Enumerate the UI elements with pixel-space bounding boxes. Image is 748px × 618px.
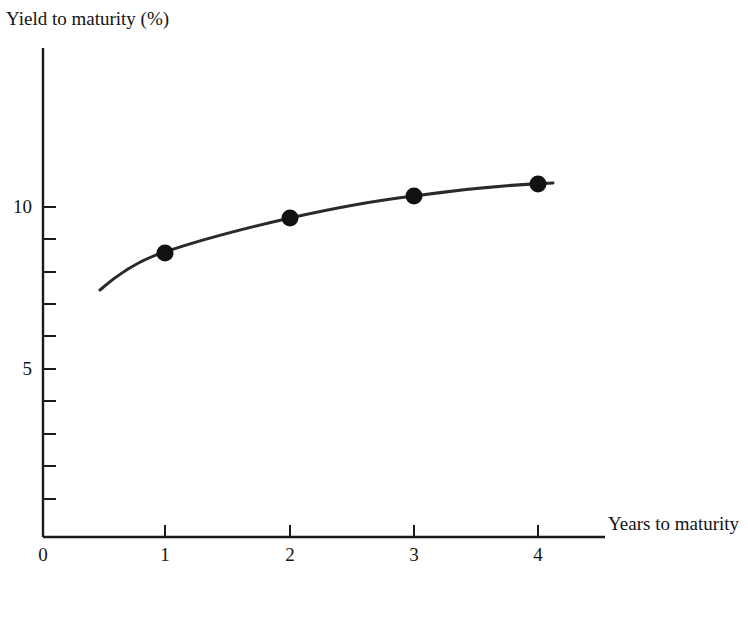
- yield-curve-figure: Yield to maturity (%) Years to maturity: [0, 0, 748, 618]
- y-tick-label-5: 5: [2, 359, 32, 379]
- data-point-marker: [406, 188, 423, 205]
- x-tick-label-4: 4: [523, 545, 553, 565]
- x-tick-label-0: 0: [28, 545, 58, 565]
- x-tick-label-1: 1: [150, 545, 180, 565]
- x-tick-label-2: 2: [275, 545, 305, 565]
- yield-curve-line: [100, 183, 553, 290]
- x-tick-label-3: 3: [399, 545, 429, 565]
- x-axis-ticks: [165, 525, 538, 537]
- y-tick-label-10: 10: [2, 197, 32, 217]
- data-point-marker: [157, 245, 174, 262]
- data-point-marker: [282, 210, 299, 227]
- chart-plot-area: [0, 0, 748, 618]
- y-axis-ticks: [43, 207, 56, 499]
- data-point-marker: [530, 176, 547, 193]
